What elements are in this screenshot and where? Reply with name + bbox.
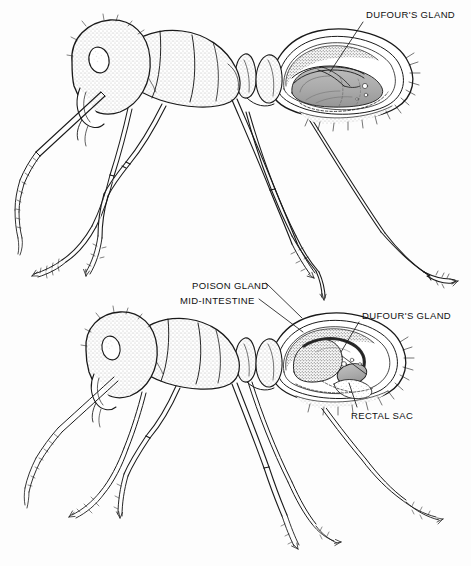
lower-ant-petiole xyxy=(236,338,283,390)
upper-ant-head xyxy=(15,14,150,255)
lower-ant-gaster xyxy=(271,313,414,415)
leader-poison-gland xyxy=(266,283,302,318)
upper-ant-front-leg xyxy=(31,108,132,278)
leader-mid-intestine xyxy=(259,299,303,332)
upper-ant-hind-leg-far xyxy=(300,105,458,288)
lower-ant xyxy=(24,306,443,551)
label-dufours-gland-top: DUFOUR'S GLAND xyxy=(366,9,455,20)
lower-ant-hind-leg-near xyxy=(232,383,299,551)
upper-ant-hind-leg-near xyxy=(232,99,315,281)
label-poison-gland: POISON GLAND xyxy=(192,280,269,291)
upper-ant-petiole xyxy=(236,54,283,106)
upper-ant xyxy=(15,14,458,300)
upper-ant-gaster xyxy=(271,29,420,131)
label-rectal-sac: RECTAL SAC xyxy=(351,410,413,421)
upper-ant-mid-leg-near xyxy=(81,104,166,276)
lower-ant-mid-leg-near xyxy=(114,386,180,518)
anatomy-figure: DUFOUR'S GLAND POISON GLAND MID-INTESTIN… xyxy=(0,0,471,566)
label-dufours-gland-bottom: DUFOUR'S GLAND xyxy=(362,310,451,321)
label-mid-intestine: MID-INTESTINE xyxy=(180,295,255,306)
